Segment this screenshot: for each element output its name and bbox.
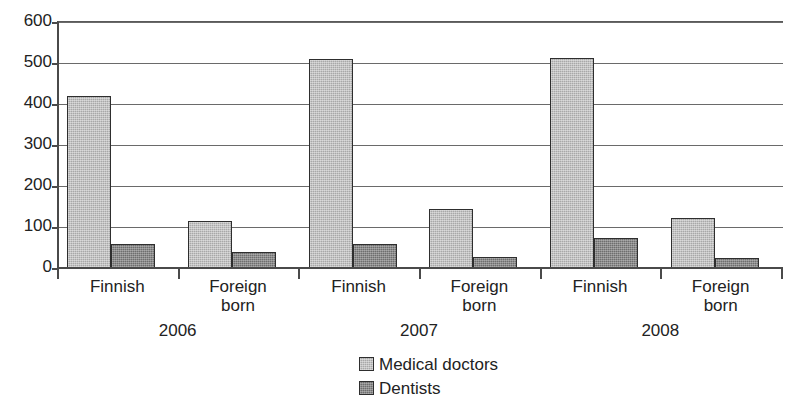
- x-axis-category-label: Finnish: [540, 277, 661, 296]
- x-axis-category-label: Foreignborn: [178, 277, 299, 315]
- y-axis-tick-mark: [52, 186, 59, 188]
- y-axis-tick-mark: [52, 145, 59, 147]
- bar-dentists: [232, 252, 276, 268]
- x-axis: FinnishForeignbornFinnishForeignbornFinn…: [57, 269, 783, 339]
- bar-group: [421, 22, 542, 268]
- x-axis-group-label: 2008: [540, 321, 781, 340]
- bar-doctors: [309, 59, 353, 268]
- x-axis-group-label: 2006: [57, 321, 298, 340]
- x-axis-tick-mark: [57, 269, 59, 279]
- x-axis-category-label-line: born: [178, 296, 299, 315]
- x-axis-category-label-line: Foreign: [419, 277, 540, 296]
- y-axis-tick-label: 0: [8, 258, 52, 275]
- legend-swatch-dentists: [359, 381, 374, 395]
- y-axis-tick-mark: [52, 227, 59, 229]
- bar-group: [180, 22, 301, 268]
- bar-doctors: [429, 209, 473, 268]
- y-axis: 0100200300400500600: [0, 0, 52, 280]
- bar-dentists: [353, 244, 397, 268]
- chart-legend: Medical doctorsDentists: [359, 352, 619, 400]
- y-axis-tick-label: 300: [8, 135, 52, 152]
- bar-dentists: [111, 244, 155, 268]
- bar-doctors: [67, 96, 111, 268]
- x-axis-tick-mark: [781, 269, 783, 279]
- legend-item: Medical doctors: [359, 352, 619, 376]
- x-axis-category-label-line: Foreign: [178, 277, 299, 296]
- bar-group: [59, 22, 180, 268]
- x-axis-category-label: Finnish: [57, 277, 178, 296]
- x-axis-category-label-line: Finnish: [540, 277, 661, 296]
- x-axis-group-label: 2007: [298, 321, 539, 340]
- x-axis-category-label-line: born: [660, 296, 781, 315]
- y-axis-tick-mark: [52, 63, 59, 65]
- x-axis-category-label-line: Finnish: [57, 277, 178, 296]
- bar-doctors: [188, 221, 232, 268]
- bar-doctors: [550, 58, 594, 268]
- x-axis-category-label: Foreignborn: [419, 277, 540, 315]
- y-axis-tick-label: 600: [8, 12, 52, 29]
- x-axis-category-label: Foreignborn: [660, 277, 781, 315]
- y-axis-tick-label: 200: [8, 176, 52, 193]
- x-axis-category-label-line: Finnish: [298, 277, 419, 296]
- y-axis-tick-label: 400: [8, 94, 52, 111]
- bar-group: [300, 22, 421, 268]
- bar-chart: 0100200300400500600 FinnishForeignbornFi…: [0, 0, 787, 405]
- bar-group: [542, 22, 663, 268]
- y-axis-tick-label: 500: [8, 53, 52, 70]
- bar-group: [662, 22, 783, 268]
- bar-doctors: [671, 218, 715, 268]
- legend-label: Medical doctors: [379, 355, 498, 374]
- x-axis-category-label-line: Foreign: [660, 277, 781, 296]
- y-axis-tick-label: 100: [8, 217, 52, 234]
- y-axis-tick-mark: [52, 22, 59, 24]
- plot-area: [57, 21, 783, 268]
- bar-dentists: [594, 238, 638, 268]
- x-axis-category-label-line: born: [419, 296, 540, 315]
- y-axis-tick-mark: [52, 104, 59, 106]
- legend-swatch-doctors: [359, 357, 374, 371]
- x-axis-category-label: Finnish: [298, 277, 419, 296]
- legend-label: Dentists: [379, 379, 440, 398]
- legend-item: Dentists: [359, 376, 619, 400]
